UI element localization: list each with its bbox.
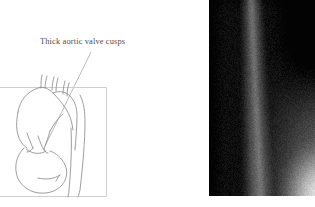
descending-aorta-anterior xyxy=(68,128,71,197)
left-ventricle-outline xyxy=(16,148,67,193)
valve-cusp-right xyxy=(44,131,50,149)
descending-aorta-posterior xyxy=(78,95,85,197)
radiograph-image xyxy=(209,0,315,196)
schematic-drawing xyxy=(0,0,200,207)
branch-vessel-1 xyxy=(41,75,42,88)
schematic-frame xyxy=(0,88,107,197)
branch-vessel-2 xyxy=(52,77,54,90)
ascending-aorta-outer-wall xyxy=(18,87,73,130)
anatomy-lines xyxy=(16,75,85,197)
leader-line xyxy=(45,52,91,146)
aortic-root-left-border xyxy=(17,112,27,148)
figure-root: Thick aortic valve cusps xyxy=(0,0,315,207)
valve-annulus xyxy=(26,149,46,153)
radiograph-panel xyxy=(209,0,315,196)
branch-vessel-2b xyxy=(56,78,58,91)
valve-cusp-left xyxy=(27,133,33,148)
left-ventricle-inner-line xyxy=(38,175,60,179)
valve-cusp-middle xyxy=(38,136,44,150)
schematic-panel: Thick aortic valve cusps xyxy=(0,0,200,207)
branch-vessel-1b xyxy=(45,76,47,88)
